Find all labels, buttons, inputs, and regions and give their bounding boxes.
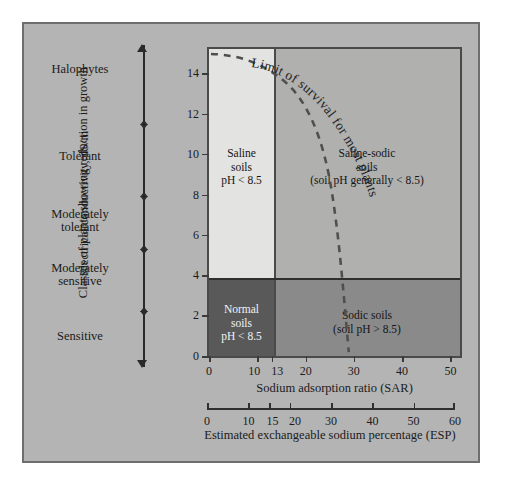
x-tick: [450, 356, 452, 362]
esp-axis-title: Estimated exchangeable sodium percentage…: [170, 428, 490, 443]
y-tick-label: 0: [193, 349, 199, 364]
esp-tick: [331, 403, 333, 408]
y-tick: [202, 195, 209, 197]
esp-tick-label: 40: [366, 414, 378, 429]
plot-area: Saline soils pH < 8.5 Saline-sodic soils…: [207, 47, 462, 358]
y-tick-label: 4: [193, 268, 199, 283]
y-tick-label: 2: [193, 308, 199, 323]
y-tick: [202, 315, 209, 317]
x-tick: [209, 356, 211, 362]
x-tick-label: 10: [248, 364, 260, 379]
x-tick: [272, 356, 274, 362]
esp-tick-label: 0: [204, 414, 210, 429]
esp-tick-label: 60: [449, 414, 461, 429]
esp-tick: [248, 403, 250, 408]
x-tick-label: 0: [206, 364, 212, 379]
y-tick: [202, 73, 209, 75]
esp-tick-label: 20: [289, 414, 301, 429]
esp-axis-cap: [453, 403, 455, 409]
y-tick: [202, 154, 209, 156]
esp-tick: [290, 403, 292, 408]
y-tick-label: 10: [187, 146, 199, 161]
esp-tick: [372, 403, 374, 408]
y-tick-label: 12: [187, 106, 199, 121]
x-tick-label: 20: [300, 364, 312, 379]
esp-tick-label: 50: [408, 414, 420, 429]
y-tick: [202, 114, 209, 116]
y-tick-label: 6: [193, 227, 199, 242]
x-tick-label: 40: [396, 364, 408, 379]
limit-of-survival-curve: [209, 49, 460, 356]
x-tick: [257, 356, 259, 362]
y-tick: [202, 235, 209, 237]
y-axis-title: Electrical conductivity, dS/m: [77, 54, 92, 354]
esp-tick-label: 30: [325, 414, 337, 429]
x-tick: [402, 356, 404, 362]
x-tick: [354, 356, 356, 362]
esp-tick-label: 10: [242, 414, 254, 429]
plot-container: Electrical conductivity, dS/m Saline soi…: [0, 0, 505, 489]
y-tick-label: 8: [193, 187, 199, 202]
y-tick: [202, 275, 209, 277]
x-axis-title: Sodium adsorption ratio (SAR): [207, 381, 462, 396]
esp-axis: 0 10 15 20 30 40 50 60: [207, 408, 455, 410]
figure-root: Classes of plants showing reduction in g…: [0, 0, 505, 489]
esp-tick-label: 15: [266, 414, 278, 429]
x-tick: [306, 356, 308, 362]
y-tick: [202, 356, 209, 358]
x-tick-label: 13: [271, 364, 283, 379]
esp-tick: [269, 403, 271, 408]
x-tick-label: 30: [348, 364, 360, 379]
esp-tick: [414, 403, 416, 408]
esp-axis-cap: [207, 403, 209, 409]
x-tick-label: 50: [444, 364, 456, 379]
y-tick-label: 14: [187, 66, 199, 81]
